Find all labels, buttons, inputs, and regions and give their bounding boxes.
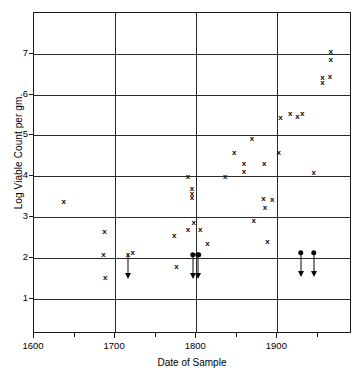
data-point-x: x (262, 160, 266, 168)
data-point-x: x (102, 228, 106, 236)
data-point-x: x (288, 110, 292, 118)
x-tick-mark-major (276, 333, 277, 338)
data-point-x: x (278, 114, 282, 122)
x-tick-label: 1700 (94, 341, 134, 351)
gridline-horizontal (34, 54, 350, 55)
below-detection-arrow (297, 253, 305, 277)
data-point-x: x (205, 240, 209, 248)
y-tick-mark (29, 175, 33, 176)
data-point-x: x (198, 226, 202, 234)
data-point-x: x (126, 251, 130, 259)
x-tick-label: 1900 (256, 341, 296, 351)
y-tick-label: 5 (10, 129, 28, 139)
data-point-x: x (265, 238, 269, 246)
y-tick-mark (29, 216, 33, 217)
x-tick-mark-minor (317, 333, 318, 337)
x-tick-mark-major (114, 333, 115, 338)
data-point-x: x (277, 149, 281, 157)
y-tick-mark (29, 298, 33, 299)
arrow-head-icon (195, 273, 201, 279)
x-tick-mark-minor (236, 333, 237, 337)
y-tick-mark (29, 53, 33, 54)
x-tick-mark-minor (74, 333, 75, 337)
arrow-shaft (198, 255, 199, 274)
y-tick-label: 1 (10, 293, 28, 303)
data-point-x: x (103, 274, 107, 282)
data-point-x: x (328, 73, 332, 81)
data-point-x: x (311, 169, 315, 177)
arrow-shaft (300, 253, 301, 272)
below-detection-arrow (194, 255, 202, 279)
data-point-x: x (251, 217, 255, 225)
data-point-x: x (232, 149, 236, 157)
data-point-censored-dot (196, 252, 202, 258)
data-point-x: x (270, 196, 274, 204)
arrow-shaft (313, 253, 314, 272)
y-tick-label: 4 (10, 170, 28, 180)
x-tick-label: 1800 (175, 341, 215, 351)
data-point-x: x (186, 226, 190, 234)
data-point-x: x (261, 195, 265, 203)
data-point-x: x (186, 173, 190, 181)
data-point-censored-dot (298, 250, 304, 256)
data-point-x: x (174, 263, 178, 271)
below-detection-arrow (310, 253, 318, 277)
data-point-x: x (320, 79, 324, 87)
x-tick-mark-minor (155, 333, 156, 337)
y-tick-label: 7 (10, 48, 28, 58)
gridline-vertical (115, 13, 116, 332)
data-point-x: x (191, 219, 195, 227)
data-point-x: x (263, 204, 267, 212)
gridline-vertical (277, 13, 278, 332)
data-point-x: x (62, 198, 66, 206)
data-point-x: x (250, 135, 254, 143)
data-point-x: x (300, 110, 304, 118)
data-point-x: x (242, 168, 246, 176)
y-tick-mark (29, 257, 33, 258)
gridline-horizontal (34, 135, 350, 136)
x-tick-label: 1600 (13, 341, 53, 351)
data-point-censored-dot (311, 250, 317, 256)
x-tick-mark-major (195, 333, 196, 338)
x-axis-label: Date of Sample (33, 357, 351, 368)
arrow-head-icon (298, 271, 304, 277)
y-tick-label: 2 (10, 252, 28, 262)
data-point-x: x (328, 56, 332, 64)
figure-scatter-plot: xxxxxxxxxxxxxxxxxxxxxxxxxxxxxxxxxxxxxx L… (0, 0, 361, 377)
arrow-head-icon (125, 273, 131, 279)
data-point-x: x (223, 173, 227, 181)
data-point-x: x (295, 113, 299, 121)
y-tick-mark (29, 94, 33, 95)
data-point-x: x (190, 194, 194, 202)
y-axis-label: Log Viable Count per gm. (13, 52, 24, 252)
y-tick-label: 3 (10, 211, 28, 221)
arrow-head-icon (311, 271, 317, 277)
y-tick-label: 6 (10, 89, 28, 99)
gridline-vertical (196, 13, 197, 332)
gridline-horizontal (34, 176, 350, 177)
gridline-horizontal (34, 95, 350, 96)
plot-area (33, 12, 351, 333)
data-point-x: x (101, 251, 105, 259)
x-tick-mark-major (33, 333, 34, 338)
y-tick-mark (29, 134, 33, 135)
arrow-shaft (192, 255, 193, 274)
data-point-x: x (172, 232, 176, 240)
gridline-horizontal (34, 299, 350, 300)
